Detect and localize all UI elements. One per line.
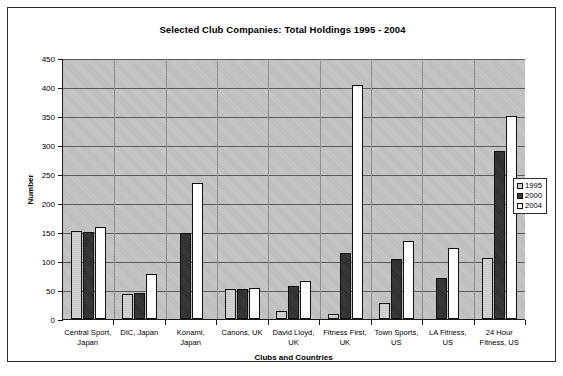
bar bbox=[506, 116, 517, 319]
bar bbox=[436, 278, 447, 319]
chart-page: Selected Club Companies: Total Holdings … bbox=[0, 0, 563, 376]
bar-group bbox=[268, 59, 319, 319]
chart-title: Selected Club Companies: Total Holdings … bbox=[8, 24, 557, 35]
x-axis-category-label: Canons, UK bbox=[216, 328, 267, 347]
bar-group bbox=[371, 59, 422, 319]
bar-groups bbox=[63, 59, 525, 319]
x-axis-category-label: Town Sports, US bbox=[371, 328, 422, 347]
bar bbox=[71, 231, 82, 319]
bar bbox=[122, 294, 133, 319]
bar bbox=[288, 286, 299, 319]
legend-swatch-1995 bbox=[517, 183, 523, 189]
bar bbox=[494, 151, 505, 319]
x-axis-category-label: LA Fitness, US bbox=[422, 328, 473, 347]
y-axis-tick-label: 400 bbox=[42, 84, 55, 93]
legend-item: 2000 bbox=[517, 191, 542, 201]
bar bbox=[83, 232, 94, 319]
bar-group bbox=[217, 59, 268, 319]
y-axis-title-label: Number bbox=[26, 174, 35, 204]
bar bbox=[391, 259, 402, 319]
x-axis-tick bbox=[474, 320, 475, 325]
y-axis-tick-label: 200 bbox=[42, 200, 55, 209]
x-axis-tick bbox=[165, 320, 166, 325]
y-axis-tick-label: 350 bbox=[42, 113, 55, 122]
y-axis-tick-label: 0 bbox=[51, 316, 55, 325]
legend-swatch-2004 bbox=[517, 203, 523, 209]
x-axis-category-label: 24 Hour Fitness, US bbox=[474, 328, 525, 347]
legend-label: 1995 bbox=[525, 181, 542, 191]
legend-swatch-2000 bbox=[517, 193, 523, 199]
y-axis-tick-label: 250 bbox=[42, 171, 55, 180]
legend-label: 2004 bbox=[525, 201, 542, 211]
bar-group bbox=[63, 59, 114, 319]
x-axis-tick bbox=[216, 320, 217, 325]
x-axis-tick bbox=[268, 320, 269, 325]
x-axis-category-label: David Lloyd, UK bbox=[268, 328, 319, 347]
bar-group bbox=[422, 59, 473, 319]
bar bbox=[95, 227, 106, 319]
y-axis-tick-label: 50 bbox=[46, 287, 55, 296]
x-axis-title: Clubs and Countries bbox=[62, 353, 525, 362]
bar-group bbox=[114, 59, 165, 319]
bar bbox=[352, 85, 363, 319]
bar bbox=[448, 248, 459, 319]
x-axis-tick bbox=[422, 320, 423, 325]
x-axis-tick bbox=[525, 320, 526, 325]
bar bbox=[249, 288, 260, 319]
bar bbox=[237, 289, 248, 319]
y-axis-title: Number bbox=[24, 59, 36, 320]
x-axis-category-label: Fitness First, UK bbox=[319, 328, 370, 347]
bar-group bbox=[166, 59, 217, 319]
legend: 199520002004 bbox=[513, 178, 547, 214]
x-axis-tick bbox=[113, 320, 114, 325]
y-axis-tick-label: 100 bbox=[42, 258, 55, 267]
bar bbox=[146, 274, 157, 319]
bar bbox=[192, 183, 203, 319]
bar bbox=[134, 293, 145, 319]
bar bbox=[328, 314, 339, 319]
x-axis-category-labels: Central Sport, JapanDIC, JapanKonami, Ja… bbox=[62, 328, 525, 347]
x-axis-category-label: DIC, Japan bbox=[113, 328, 164, 347]
x-axis-tick bbox=[319, 320, 320, 325]
bar bbox=[482, 258, 493, 319]
bar bbox=[225, 289, 236, 319]
bar bbox=[340, 253, 351, 319]
bar bbox=[300, 281, 311, 319]
y-axis-tick-label: 150 bbox=[42, 229, 55, 238]
x-axis-category-label: Konami, Japan bbox=[165, 328, 216, 347]
bar bbox=[276, 311, 287, 319]
x-axis-tick bbox=[371, 320, 372, 325]
legend-item: 1995 bbox=[517, 181, 542, 191]
bar-group bbox=[320, 59, 371, 319]
legend-item: 2004 bbox=[517, 201, 542, 211]
y-axis-tick-label: 450 bbox=[42, 55, 55, 64]
legend-label: 2000 bbox=[525, 191, 542, 201]
bar bbox=[403, 241, 414, 319]
x-axis-category-label: Central Sport, Japan bbox=[62, 328, 113, 347]
y-axis-tick-label: 300 bbox=[42, 142, 55, 151]
bar bbox=[379, 303, 390, 319]
plot-area: 050100150200250300350400450 bbox=[62, 59, 525, 320]
y-axis-tick bbox=[58, 320, 63, 321]
chart-frame: Selected Club Companies: Total Holdings … bbox=[7, 7, 556, 362]
bar bbox=[180, 233, 191, 319]
